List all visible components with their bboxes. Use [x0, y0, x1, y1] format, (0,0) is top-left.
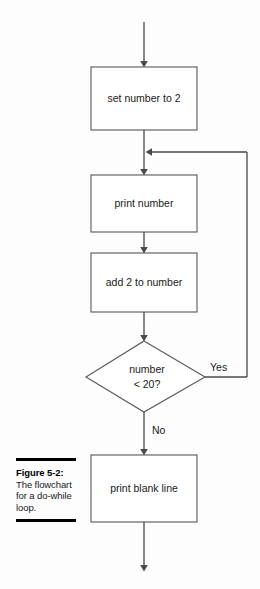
- node-print-number-label: print number: [115, 197, 174, 209]
- node-decision-label-line1: number: [129, 363, 165, 375]
- node-set-number-label: set number to 2: [108, 92, 181, 104]
- caption-figure-label: Figure 5-2:: [16, 467, 78, 479]
- caption-rule-bottom: [16, 519, 76, 522]
- caption-text-block: Figure 5-2: The flowchart for a do-while…: [16, 467, 78, 513]
- edge-label-yes: Yes: [210, 361, 227, 373]
- edge-label-no: No: [152, 424, 166, 436]
- caption-figure-description: The flowchart for a do-while loop.: [16, 479, 78, 514]
- node-decision-label-line2: < 20?: [134, 378, 161, 390]
- caption-rule-top: [16, 458, 76, 461]
- figure-page: set number to 2 print number add 2 to nu…: [0, 0, 260, 589]
- node-decision-number-lt-20: [86, 341, 205, 412]
- node-add-two-label: add 2 to number: [106, 276, 183, 288]
- figure-caption: Figure 5-2: The flowchart for a do-while…: [16, 458, 78, 522]
- node-print-blank-line-label: print blank line: [110, 482, 178, 494]
